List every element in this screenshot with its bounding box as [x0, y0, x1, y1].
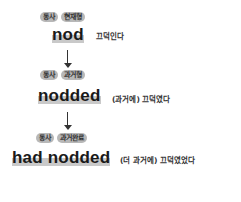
meaning-past: (과거에) 끄덕였다 [112, 93, 170, 104]
row-2-badges: 동사 과거형 [40, 70, 85, 80]
badge-tense: 현재형 [61, 12, 85, 22]
badge-part-of-speech: 동사 [36, 133, 54, 143]
badge-tense: 과거완료 [57, 133, 87, 143]
row-3-badges: 동사 과거완료 [36, 133, 87, 143]
badge-part-of-speech: 동사 [40, 12, 58, 22]
word-present: nod [52, 25, 84, 44]
badge-part-of-speech: 동사 [40, 70, 58, 80]
word-past-perfect: had nodded [12, 148, 110, 167]
meaning-past-perfect: (더 과거에) 끄덕였었다 [120, 154, 195, 165]
down-arrow-icon [63, 112, 73, 130]
word-past: nodded [38, 86, 101, 105]
down-arrow-icon [63, 50, 73, 68]
row-1-badges: 동사 현재형 [40, 12, 85, 22]
badge-tense: 과거형 [61, 70, 85, 80]
meaning-present: 끄덕인다 [96, 30, 124, 41]
